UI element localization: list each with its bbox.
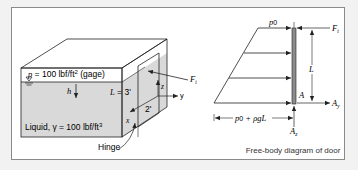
force-label: Ft: [189, 74, 197, 85]
top-pressure-label: p0: [268, 17, 277, 27]
fbd-caption: Free-body diagram of door: [246, 146, 341, 155]
width-label: 2': [145, 104, 152, 114]
liquid-label: Liquid, γ = 100 lbf/ft3: [25, 122, 103, 132]
pressure-label: p = 100 lbf/ft2 (gage): [27, 69, 105, 79]
free-body-diagram: [214, 22, 330, 127]
figure-svg: p = 100 lbf/ft2 (gage) Liquid, γ = 100 l…: [0, 0, 358, 170]
depth-label: h: [67, 86, 71, 96]
y-axis-label: y: [180, 91, 184, 100]
fbd-length-label: L: [308, 64, 314, 74]
tank-diagram: [21, 39, 188, 150]
x-axis-label: x: [125, 116, 130, 125]
reaction-z-label: Az: [289, 126, 298, 137]
door-bar: [292, 28, 296, 104]
bottom-pressure-label: p0 + ρgL: [234, 113, 266, 123]
hinge-label: Hinge: [98, 142, 120, 152]
point-a-label: A: [298, 90, 305, 100]
length-label: L = 3': [109, 87, 131, 97]
force-top-label: Ft: [331, 23, 339, 34]
z-axis-label: z: [160, 82, 164, 91]
reaction-y-label: Ay: [331, 98, 340, 109]
